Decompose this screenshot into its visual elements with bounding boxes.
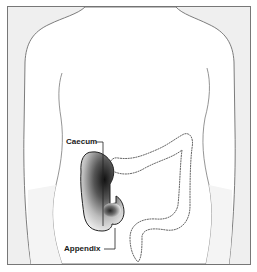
anatomy-diagram [0, 0, 257, 272]
appendix-label: Appendix [64, 245, 100, 253]
appendix-inflamed-spot [103, 203, 121, 217]
caecum-label: Caecum [66, 138, 97, 146]
